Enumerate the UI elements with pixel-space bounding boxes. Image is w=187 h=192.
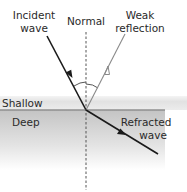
normal-label: Normal: [67, 15, 105, 27]
reflection-angle-arc: [86, 84, 98, 88]
shallow-label: Shallow: [2, 97, 43, 109]
refracted-label-line2: wave: [139, 129, 167, 141]
incident-label-line1: Incident: [13, 9, 55, 21]
incident-label-line2: wave: [20, 22, 48, 34]
wave-refraction-diagram: Incident wave Normal Weak reflection Sha…: [0, 0, 187, 192]
refracted-label-line1: Refracted: [121, 116, 172, 128]
deep-label: Deep: [12, 116, 40, 128]
incident-angle-arc: [74, 82, 86, 86]
reflection-label-line1: Weak: [126, 9, 156, 21]
reflection-label-line2: reflection: [115, 22, 165, 34]
